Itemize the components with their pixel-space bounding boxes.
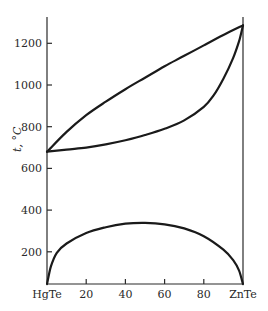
phase-diagram: 20040060080010001200 HgTe20406080ZnTe t,… <box>0 0 268 311</box>
y-tick-label: 800 <box>21 121 42 134</box>
x-tick-label: 80 <box>197 288 211 301</box>
y-tick-label: 600 <box>21 162 42 175</box>
y-tick-label: 1000 <box>14 79 42 92</box>
x-ticks: HgTe20406080ZnTe <box>32 279 257 301</box>
x-tick-label: 20 <box>79 288 93 301</box>
y-tick-label: 400 <box>21 204 42 217</box>
y-axis-label: t, °C <box>11 126 24 152</box>
miscibility-gap-curve <box>47 223 243 284</box>
x-tick-label: ZnTe <box>229 288 257 301</box>
x-tick-label: 40 <box>118 288 132 301</box>
y-tick-label: 200 <box>21 246 42 259</box>
y-tick-label: 1200 <box>14 37 42 50</box>
liquidus-curve <box>47 25 243 151</box>
curves <box>47 25 243 284</box>
x-tick-label: HgTe <box>32 288 62 301</box>
x-tick-label: 60 <box>158 288 172 301</box>
solidus-curve <box>47 25 243 151</box>
axes <box>47 17 243 284</box>
